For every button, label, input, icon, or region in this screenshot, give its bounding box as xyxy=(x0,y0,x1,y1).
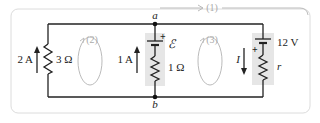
right-emf-label: 12 V xyxy=(277,36,299,48)
circuit-diagram: (1) + + a b xyxy=(0,0,320,123)
right-current-arrow-icon xyxy=(241,48,247,75)
loop-2-label: (2) xyxy=(86,34,98,46)
loop-1-path xyxy=(160,5,308,15)
node-b-label: b xyxy=(152,98,158,110)
middle-resistor-label: 1 Ω xyxy=(168,61,184,73)
node-a-label: a xyxy=(152,9,158,21)
right-battery-plus: + xyxy=(252,44,258,55)
left-current-arrow-icon xyxy=(34,46,40,73)
right-resistor-label: r xyxy=(277,60,282,72)
middle-emf-label: ℰ xyxy=(168,37,177,51)
left-current-label: 2 A xyxy=(17,53,33,65)
left-resistor-label: 3 Ω xyxy=(56,53,72,65)
right-branch-shade xyxy=(252,33,274,85)
middle-current-arrow-icon xyxy=(134,46,140,73)
right-current-label: I xyxy=(235,53,241,65)
node-a xyxy=(153,22,158,27)
loop-3-label: (3) xyxy=(206,34,218,46)
middle-current-label: 1 A xyxy=(117,53,133,65)
middle-battery-plus: + xyxy=(160,31,166,42)
loop-1-label: (1) xyxy=(206,2,218,14)
